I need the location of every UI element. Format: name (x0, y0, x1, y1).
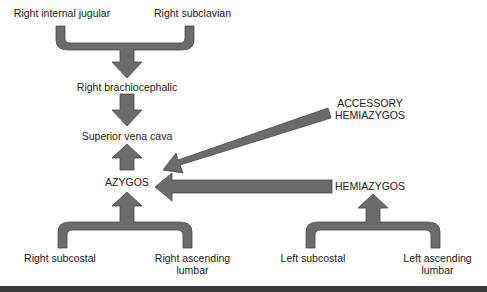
hemiazygos-bracket-arrow (306, 194, 440, 248)
node-azygos: AZYGOS (97, 176, 157, 188)
up-arrow-svc (112, 144, 142, 170)
node-right-ascending-lumbar: Right ascending lumbar (145, 252, 240, 276)
top-bracket-arrow (56, 26, 194, 78)
node-right-subclavian: Right subclavian (145, 7, 240, 19)
arrows-layer (0, 0, 487, 292)
node-left-ascending-lumbar: Left ascending lumbar (390, 252, 485, 276)
bottom-divider-bar (0, 286, 487, 292)
node-left-subcostal: Left subcostal (268, 252, 358, 264)
node-accessory-hemiazygos: ACCESSORY HEMIAZYGOS (330, 97, 410, 121)
venous-drainage-diagram: Right internal jugular Right subclavian … (0, 0, 487, 292)
node-hemiazygos: HEMIAZYGOS (330, 180, 410, 192)
node-right-subcostal: Right subcostal (10, 252, 110, 264)
down-arrow-svc (112, 94, 142, 126)
hemiazygos-to-azygos-arrow (155, 173, 332, 201)
node-right-brachiocephalic: Right brachiocephalic (67, 81, 187, 93)
node-right-internal-jugular: Right internal jugular (2, 7, 122, 19)
node-superior-vena-cava: Superior vena cava (67, 130, 187, 142)
accessory-to-azygos-arrow (163, 108, 331, 173)
